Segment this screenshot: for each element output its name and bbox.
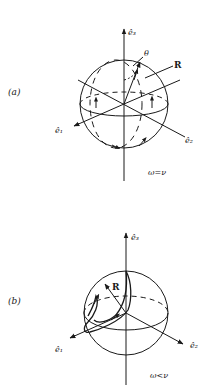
e3-label-a: ê₃: [128, 28, 136, 37]
panel-b-label: (b): [8, 296, 21, 306]
panel-a-label: (a): [8, 87, 21, 97]
condition-b: ω<ν: [150, 371, 168, 380]
panel-a: [74, 29, 185, 181]
e2-label-a: ê₂: [185, 136, 193, 145]
e2-axis: [126, 313, 183, 344]
diagram-canvas: (a) ê₃ θ R ê₁ ê₂ ω=ν (b) ê₃ R ê₁ ê₂ ω<ν: [0, 0, 220, 392]
r-label-b: R: [112, 282, 120, 292]
e1-label-a: ê₁: [55, 126, 63, 135]
theta-label: θ: [144, 49, 149, 58]
precession-arrow: [139, 139, 145, 146]
meridian-dashed: [90, 60, 142, 148]
e2-label-b: ê₂: [190, 341, 198, 350]
e3-label-b: ê₃: [131, 233, 139, 242]
e2-axis: [78, 80, 185, 137]
panel-b: [70, 233, 183, 385]
e1-axis: [70, 313, 126, 338]
condition-a: ω=ν: [148, 168, 166, 177]
r-label-a: R: [174, 60, 182, 70]
e1-label-b: ê₁: [55, 345, 63, 354]
